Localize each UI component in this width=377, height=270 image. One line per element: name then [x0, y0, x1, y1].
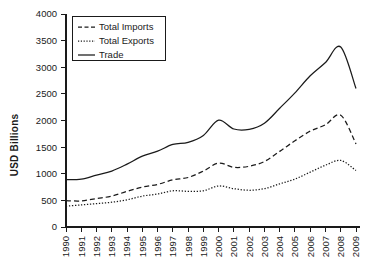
- x-tick-label: 1990: [60, 236, 71, 257]
- x-tick-label: 2007: [320, 236, 331, 257]
- x-tick-label: 1997: [167, 236, 178, 257]
- x-tick-label: 2008: [335, 236, 346, 257]
- x-tick-label: 2000: [213, 236, 224, 257]
- y-tick-label: 2500: [36, 88, 57, 99]
- x-tick-label: 1996: [152, 236, 163, 257]
- x-tick-label: 1993: [106, 236, 117, 257]
- x-tick-label: 2001: [228, 236, 239, 257]
- x-tick-label: 2006: [305, 236, 316, 257]
- legend-label-trade[interactable]: Trade: [99, 49, 123, 60]
- y-axis-title: USD Billions: [9, 114, 20, 177]
- x-axis-ticks: 1990199119921993199419951996199719981999…: [60, 227, 361, 257]
- y-tick-label: 3500: [36, 35, 57, 46]
- x-tick-label: 2009: [350, 236, 361, 257]
- x-tick-label: 2005: [289, 236, 300, 257]
- series-line-trade: [66, 46, 356, 179]
- y-axis-ticks: 05001000150020002500300035004000: [36, 8, 66, 232]
- y-tick-label: 1500: [36, 142, 57, 153]
- chart-legend[interactable]: Total ImportsTotal ExportsTrade: [73, 17, 166, 61]
- x-tick-label: 2004: [274, 236, 285, 257]
- x-tick-label: 1992: [91, 236, 102, 257]
- y-tick-label: 1000: [36, 168, 57, 179]
- legend-label-total-exports[interactable]: Total Exports: [99, 35, 154, 46]
- x-tick-label: 1998: [183, 236, 194, 257]
- series-line-total-exports: [66, 160, 356, 206]
- y-tick-label: 0: [52, 221, 57, 232]
- legend-label-total-imports[interactable]: Total Imports: [99, 21, 154, 32]
- x-tick-label: 1995: [137, 236, 148, 257]
- chart-figure: USD Billions 050010001500200025003000350…: [0, 0, 377, 270]
- y-tick-label: 4000: [36, 8, 57, 19]
- x-tick-label: 1994: [121, 236, 132, 257]
- x-tick-label: 1999: [198, 236, 209, 257]
- data-series-group: [66, 46, 356, 206]
- line-chart: USD Billions 050010001500200025003000350…: [0, 0, 377, 270]
- x-tick-label: 1991: [76, 236, 87, 257]
- y-tick-label: 2000: [36, 115, 57, 126]
- y-tick-label: 3000: [36, 62, 57, 73]
- x-tick-label: 2002: [244, 236, 255, 257]
- y-tick-label: 500: [41, 195, 57, 206]
- x-tick-label: 2003: [259, 236, 270, 257]
